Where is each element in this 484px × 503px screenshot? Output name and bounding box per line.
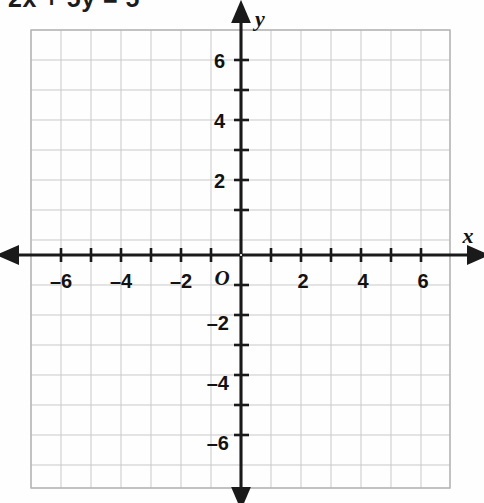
y-tick-label: 4 — [214, 110, 226, 132]
x-tick-label: 2 — [297, 270, 308, 292]
x-tick-label: –6 — [50, 270, 72, 292]
graph-page: 2x + 5y = 5 — [0, 0, 484, 503]
origin-label: O — [214, 266, 229, 290]
y-tick-label: –6 — [207, 432, 229, 454]
x-tick-label: –4 — [110, 270, 133, 292]
x-tick-label: –2 — [170, 270, 192, 292]
y-axis-name: y — [252, 6, 265, 31]
y-tick-label: –4 — [207, 372, 230, 394]
y-tick-label: 6 — [214, 50, 225, 72]
x-axis-name: x — [462, 223, 474, 248]
y-tick-label: –2 — [207, 312, 229, 334]
x-tick-label: 6 — [417, 270, 428, 292]
x-axis-tick-labels: –6 –4 –2 2 4 6 — [50, 270, 429, 292]
x-tick-label: 4 — [357, 270, 369, 292]
y-tick-label: 2 — [214, 170, 225, 192]
coordinate-plane-svg: –6 –4 –2 2 4 6 6 4 2 –2 –4 –6 O x y — [0, 0, 484, 503]
coordinate-plane: –6 –4 –2 2 4 6 6 4 2 –2 –4 –6 O x y — [0, 0, 484, 503]
